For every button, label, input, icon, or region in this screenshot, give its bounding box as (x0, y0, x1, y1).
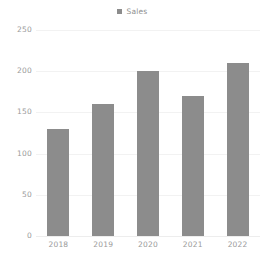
legend-label-sales: Sales (127, 8, 148, 16)
x-slot-2020: 2020 (126, 238, 171, 254)
y-tick-label-150: 150 (17, 109, 32, 117)
bar-2022[interactable] (227, 63, 249, 236)
bar-slot-2018 (36, 22, 81, 236)
x-slot-2018: 2018 (36, 238, 81, 254)
bar-slot-2022 (215, 22, 260, 236)
y-tick-label-50: 50 (22, 191, 32, 199)
y-tick-label-100: 100 (17, 150, 32, 158)
bar-slot-2021 (170, 22, 215, 236)
bar-2019[interactable] (92, 104, 114, 236)
plot-area: 250 200 150 100 50 0 (0, 22, 264, 269)
legend-item-sales[interactable]: Sales (117, 8, 148, 16)
bar-2020[interactable] (137, 71, 159, 236)
chart-legend: Sales (0, 8, 264, 16)
bar-2021[interactable] (182, 96, 204, 236)
x-tick-label-2021: 2021 (183, 238, 203, 254)
y-tick-label-200: 200 (17, 67, 32, 75)
legend-square-marker-icon (117, 9, 122, 14)
bar-slot-2019 (81, 22, 126, 236)
bar-2018[interactable] (47, 129, 69, 236)
x-tick-label-2018: 2018 (48, 238, 68, 254)
y-tick-label-250: 250 (17, 26, 32, 34)
x-slot-2019: 2019 (81, 238, 126, 254)
gridline-baseline-0 (36, 236, 260, 237)
y-tick-label-0: 0 (27, 232, 32, 240)
bars-group (36, 22, 260, 236)
x-slot-2021: 2021 (170, 238, 215, 254)
bar-chart: Sales 250 200 150 100 50 0 (0, 0, 264, 269)
x-tick-label-2019: 2019 (93, 238, 113, 254)
x-axis: 2018 2019 2020 2021 2022 (36, 238, 260, 254)
y-axis: 250 200 150 100 50 0 (0, 22, 36, 236)
bar-slot-2020 (126, 22, 171, 236)
x-tick-label-2020: 2020 (138, 238, 158, 254)
x-tick-label-2022: 2022 (228, 238, 248, 254)
x-slot-2022: 2022 (215, 238, 260, 254)
